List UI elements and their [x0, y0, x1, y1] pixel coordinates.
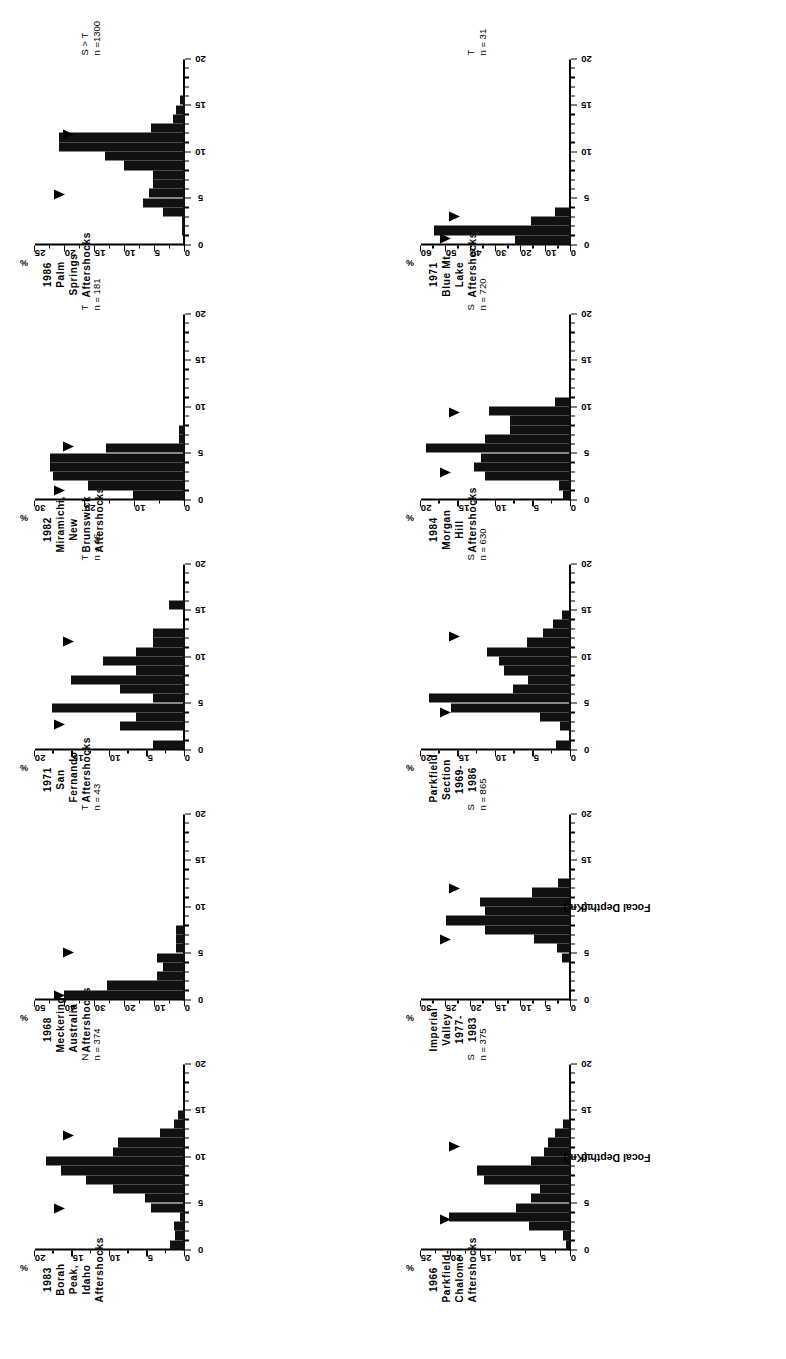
histogram-bar [488, 406, 571, 415]
histogram-bar [499, 656, 571, 665]
x-tick-minor [571, 179, 575, 180]
x-tick-minor [571, 915, 575, 916]
plot-area: 1971 San Fernando AftershocksT n = 46051… [17, 551, 377, 796]
n-value-label: n =1300 [91, 20, 102, 55]
histogram-bar [480, 897, 571, 906]
depth-marker-arrow [440, 934, 451, 944]
y-tick-label: 40 [64, 1003, 75, 1014]
y-tick-label: 20 [520, 248, 531, 259]
histogram-bar [532, 887, 571, 896]
x-tick-minor [571, 646, 575, 647]
depth-marker-arrow [449, 631, 460, 641]
y-tick-label: 0 [570, 503, 575, 514]
panel-rotated-frame: 1968 Meckering, Australia AftershocksT n… [17, 801, 377, 1046]
panel-rotated-frame: 1971 Blue Mt. Lake AftershocksT n = 3101… [403, 46, 763, 291]
x-tick-major [185, 499, 191, 500]
y-tick-label: 20 [420, 753, 431, 764]
x-tick-minor [571, 341, 575, 342]
x-tick-major [185, 244, 191, 245]
plot-area: 1984 Morgan Hill AftershocksS n = 720051… [403, 301, 763, 546]
histogram-bar [143, 198, 185, 207]
x-tick-minor [185, 878, 189, 879]
y-tick-label: 50 [34, 1003, 45, 1014]
y-tick-label: 15 [480, 1253, 491, 1264]
x-tick-label: 10 [195, 902, 206, 913]
x-tick-label: 20 [581, 1059, 592, 1070]
sample-count-label: T n = 46 [79, 490, 103, 560]
x-tick-minor [185, 980, 189, 981]
x-tick-major [571, 1063, 577, 1064]
n-value-label: n = 43 [91, 783, 102, 810]
x-tick-minor [571, 896, 575, 897]
x-tick-major [571, 499, 577, 500]
histogram-bar [568, 600, 570, 609]
histogram-bar [123, 160, 184, 169]
x-tick-minor [185, 730, 189, 731]
x-tick-minor [185, 1193, 189, 1194]
x-tick-minor [185, 850, 189, 851]
x-tick-minor [571, 961, 575, 962]
histogram-bar [557, 878, 571, 887]
histogram-bar [50, 453, 185, 462]
histogram-bar [554, 397, 571, 406]
y-tick-label: 10 [109, 753, 120, 764]
histogram-bar [173, 1119, 184, 1128]
histogram-bar [484, 434, 570, 443]
y-tick-minor [52, 1250, 53, 1254]
histogram-bar [132, 490, 185, 499]
x-tick-minor [571, 67, 575, 68]
plot-area: 1971 Blue Mt. Lake AftershocksT n = 3101… [403, 46, 763, 291]
histogram-bar [136, 712, 185, 721]
histogram-bar [484, 471, 570, 480]
y-tick-minor [532, 1000, 533, 1004]
y-tick-minor [557, 1000, 558, 1004]
x-tick-label: 0 [197, 1245, 202, 1256]
n-value-label: n = 720 [477, 278, 488, 310]
x-tick-minor [185, 896, 189, 897]
histogram-bar [176, 105, 185, 114]
panel-rotated-frame: Imperial Valley 1977-1983S n = 865051015… [403, 801, 763, 1046]
y-tick-minor [513, 500, 514, 504]
y-tick-label: 20 [34, 753, 45, 764]
y-tick-label: 5 [533, 753, 538, 764]
x-tick-label: 10 [195, 402, 206, 413]
x-tick-label: 5 [197, 948, 202, 959]
histogram-bar [175, 1230, 185, 1239]
x-tick-label: 0 [583, 1245, 588, 1256]
x-tick-minor [185, 443, 189, 444]
x-tick-minor [571, 581, 575, 582]
histogram-panel-8: Parkfield Section 1969-1986S n = 6300510… [386, 545, 779, 802]
x-tick-minor [185, 1128, 189, 1129]
x-tick-label: 5 [197, 193, 202, 204]
histogram-bar [103, 656, 185, 665]
histogram-bar [473, 462, 571, 471]
stress-regime-label: S [465, 1054, 476, 1060]
y-tick-minor [168, 1000, 169, 1004]
y-tick-label: 10 [124, 248, 135, 259]
histogram-bar [509, 425, 571, 434]
histogram-bar [170, 1240, 185, 1249]
histogram-bar [152, 693, 184, 702]
x-tick-minor [571, 378, 575, 379]
axes: 05101520%05101520 [35, 564, 185, 750]
x-tick-major [571, 58, 577, 59]
x-tick-minor [185, 341, 189, 342]
y-axis-unit-label: % [405, 763, 413, 773]
y-axis-unit-label: % [405, 1263, 413, 1273]
x-tick-minor [571, 1146, 575, 1147]
x-tick-minor [185, 646, 189, 647]
figure-panel-grid: 1986 Palm Springs AftershocksS > T n =13… [0, 0, 786, 1359]
depth-marker-arrow [440, 707, 451, 717]
x-tick-major [571, 1109, 577, 1110]
x-tick-minor [571, 368, 575, 369]
histogram-bar [526, 637, 570, 646]
histogram-bar [451, 703, 571, 712]
x-tick-minor [571, 1128, 575, 1129]
y-tick-label: 10 [134, 503, 145, 514]
x-tick-minor [185, 1211, 189, 1212]
y-axis-unit-label: % [19, 763, 27, 773]
y-tick-label: 0 [184, 248, 189, 259]
histogram-bar [119, 684, 184, 693]
histogram-bar [52, 471, 185, 480]
y-tick-minor [108, 500, 109, 504]
